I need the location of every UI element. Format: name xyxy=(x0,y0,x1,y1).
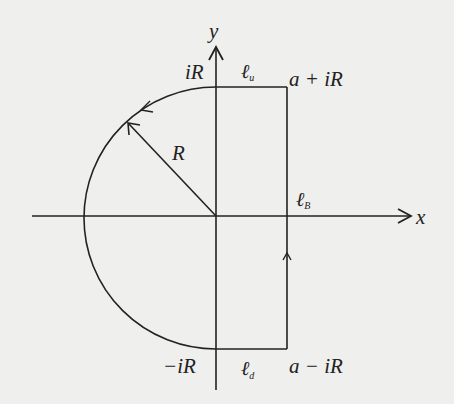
label-l-d: ℓd xyxy=(241,357,255,381)
diagram-svg: x y iR a + iR −iR a − iR R ℓu ℓd ℓB xyxy=(0,0,454,404)
label-iR: iR xyxy=(185,60,204,84)
x-axis xyxy=(32,209,411,223)
semicircle-contour xyxy=(84,87,216,349)
rectangle-contour xyxy=(216,87,291,349)
label-a-minus-iR: a − iR xyxy=(289,354,343,378)
contour-diagram: x y iR a + iR −iR a − iR R ℓu ℓd ℓB xyxy=(0,0,454,404)
label-radius: R xyxy=(171,141,185,165)
label-l-B: ℓB xyxy=(296,188,310,211)
label-minus-iR: −iR xyxy=(163,354,196,378)
label-a-plus-iR: a + iR xyxy=(289,67,343,91)
y-axis xyxy=(209,47,223,390)
y-axis-label: y xyxy=(207,19,219,43)
label-l-u: ℓu xyxy=(241,60,254,83)
x-axis-label: x xyxy=(415,205,426,229)
radius-line xyxy=(128,123,216,216)
